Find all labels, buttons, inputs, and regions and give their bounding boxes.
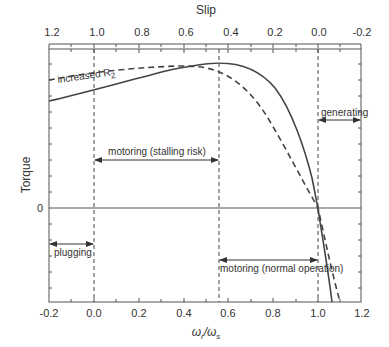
bottom-tick-label: 0.6: [220, 307, 235, 319]
stalling-risk-label: motoring (stalling risk): [108, 146, 206, 157]
top-tick-label: 0.0: [311, 26, 326, 38]
x-axis-title-div: /ω: [203, 325, 217, 339]
bottom-tick-label: 0.8: [265, 307, 280, 319]
increased-r2-label-subscript: 2: [110, 71, 116, 81]
x-axis-title-omega: ω: [192, 325, 201, 339]
y-axis-title: Torque: [19, 156, 33, 193]
frame-top-ticks: [71, 49, 340, 53]
y-axis-ticks: [49, 64, 361, 288]
generating-label: generating: [321, 107, 368, 118]
torque-speed-chart: Slip 1.2 1.0 0.8 0.6 0.4 0.2 0.0 -0.2: [0, 0, 389, 347]
bottom-tick-label: 1.2: [354, 307, 369, 319]
bottom-axis-ticks: [71, 298, 340, 302]
top-tick-label: 0.8: [134, 26, 149, 38]
bottom-tick-label: 0.0: [86, 307, 101, 319]
top-tick-label: -0.2: [353, 26, 372, 38]
x-axis-title-sub-s: s: [216, 332, 220, 341]
top-axis-title: Slip: [196, 3, 216, 17]
top-tick-label: 0.4: [223, 26, 238, 38]
top-tick-label: 0.6: [178, 26, 193, 38]
top-tick-label: 1.0: [89, 26, 104, 38]
increased-r2-label: increased R2: [57, 66, 117, 88]
x-axis-title: ωr/ωs: [192, 325, 221, 341]
normal-operation-label: motoring (normal operation): [220, 263, 343, 274]
top-axis-tick-labels: 1.2 1.0 0.8 0.6 0.4 0.2 0.0 -0.2: [44, 26, 371, 38]
bottom-tick-label: 1.0: [310, 307, 325, 319]
bottom-tick-label: -0.2: [40, 307, 59, 319]
bottom-tick-label: 0.2: [131, 307, 146, 319]
bottom-axis-tick-labels: -0.2 0.0 0.2 0.4 0.6 0.8 1.0 1.2: [40, 307, 370, 319]
increased-r2-label-main: increased R: [57, 67, 111, 85]
y-tick-label-zero: 0: [37, 202, 43, 214]
top-tick-label: 1.2: [44, 26, 59, 38]
bottom-tick-label: 0.4: [176, 307, 191, 319]
top-tick-label: 0.2: [267, 26, 282, 38]
top-axis: [49, 44, 361, 49]
plugging-label: plugging: [54, 247, 92, 258]
